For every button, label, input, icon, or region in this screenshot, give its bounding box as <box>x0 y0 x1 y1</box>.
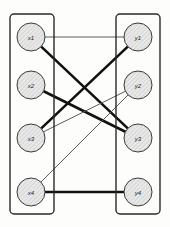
node-label-y2: y2 <box>134 83 142 89</box>
node-y3[interactable]: y3 <box>124 124 152 152</box>
node-y1[interactable]: y1 <box>124 23 152 51</box>
node-label-x4: x4 <box>27 190 35 196</box>
node-label-x1: x1 <box>27 35 34 41</box>
node-x2[interactable]: x2 <box>17 71 45 99</box>
node-label-y3: y3 <box>134 136 142 142</box>
diagram-canvas: x1x2x3x4y1y2y3y4 <box>0 0 170 227</box>
node-x1[interactable]: x1 <box>17 23 45 51</box>
node-x4[interactable]: x4 <box>17 178 45 206</box>
node-y2[interactable]: y2 <box>124 71 152 99</box>
node-label-y4: y4 <box>134 190 142 196</box>
node-label-y1: y1 <box>134 35 141 41</box>
node-layer: x1x2x3x4y1y2y3y4 <box>17 23 152 206</box>
node-y4[interactable]: y4 <box>124 178 152 206</box>
node-x3[interactable]: x3 <box>17 124 45 152</box>
node-label-x3: x3 <box>27 136 35 142</box>
bipartite-graph: x1x2x3x4y1y2y3y4 <box>0 0 170 227</box>
node-label-x2: x2 <box>27 83 35 89</box>
